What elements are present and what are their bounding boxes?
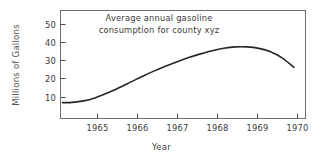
y-tick-label: 30	[45, 56, 56, 66]
x-tick-label: 1969	[247, 123, 269, 133]
x-tick-label: 1965	[87, 123, 109, 133]
line-chart-plot: 50 40 30 20 10 1965 1966 1967 1968 1969 …	[0, 0, 323, 159]
x-tick-label: 1967	[167, 123, 189, 133]
chart-title-line-2: consumption for county xyz	[99, 25, 220, 35]
y-tick-label: 20	[45, 74, 56, 84]
y-axis-title: Millions of Gallons	[11, 10, 21, 120]
x-tick-label: 1968	[207, 123, 229, 133]
chart-figure: 50 40 30 20 10 1965 1966 1967 1968 1969 …	[0, 0, 323, 159]
y-tick-label: 50	[45, 20, 56, 30]
y-tick-label: 10	[45, 93, 56, 103]
chart-title-line-1: Average annual gasoline	[106, 13, 213, 23]
y-tick-label: 40	[45, 38, 56, 48]
x-tick-label: 1970	[287, 123, 309, 133]
x-axis-title: Year	[0, 142, 323, 152]
x-tick-label: 1966	[127, 123, 149, 133]
